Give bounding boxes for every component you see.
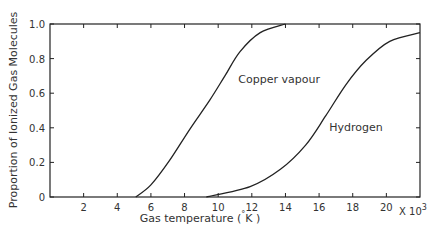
y-tick-label: 0: [39, 192, 45, 203]
series-label-hydrogen: Hydrogen: [329, 121, 383, 134]
plot-frame: [50, 24, 420, 197]
curve-copper-vapour: [136, 24, 286, 197]
axis-labels: 246810121416182000.20.40.60.81.0: [29, 19, 393, 213]
ionization-chart: Copper vapourHydrogen 246810121416182000…: [0, 0, 436, 242]
y-tick-label: 1.0: [29, 19, 45, 30]
x-axis-title: Gas temperature (°K ): [140, 210, 260, 225]
y-axis-title: Proportion of Ionized Gas Molecules: [7, 11, 20, 208]
y-tick-label: 0.6: [29, 88, 45, 99]
x-tick-label: 16: [313, 202, 326, 213]
y-tick-label: 0.2: [29, 157, 45, 168]
x-tick-label: 20: [380, 202, 393, 213]
x-tick-label: 4: [114, 202, 120, 213]
series-label-copper-vapour: Copper vapour: [238, 73, 320, 86]
curve-hydrogen: [206, 33, 420, 197]
x-tick-label: 18: [346, 202, 359, 213]
y-tick-label: 0.4: [29, 123, 45, 134]
data-curves: Copper vapourHydrogen: [136, 24, 420, 197]
axis-ticks: [50, 24, 420, 197]
x-tick-label: 2: [80, 202, 86, 213]
x-tick-label: 14: [279, 202, 292, 213]
x-multiplier-label: X 103: [399, 203, 427, 217]
y-tick-label: 0.8: [29, 54, 45, 65]
plot-border: [50, 24, 420, 197]
